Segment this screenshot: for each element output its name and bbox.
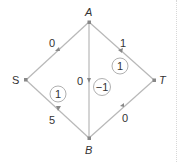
arrow-icon-s-a [55,47,60,51]
edge-b-s-label: 5 [49,114,55,126]
cycle-value-3: 1 [55,88,61,100]
flow-network-diagram: S A T B 0 1 0 5 0 1 −1 1 [0,0,178,162]
edge-a-b-label: 0 [77,75,83,87]
node-b-dot [88,137,92,141]
cycle-value-1: 1 [117,60,123,72]
edge-s-a-label: 0 [49,37,55,49]
cycle-value-2: −1 [96,81,109,93]
node-s-dot [24,78,28,82]
arrow-icon-b-t [120,103,124,107]
node-a-dot [88,21,92,25]
edge-a-t-label: 1 [120,37,126,49]
node-t-label: T [159,74,167,86]
node-a-label: A [84,6,92,18]
arrow-icon-a-b [87,78,91,83]
node-s-label: S [12,74,19,86]
node-b-label: B [85,144,92,156]
node-t-dot [153,79,157,83]
edge-b-t-label: 0 [122,112,128,124]
